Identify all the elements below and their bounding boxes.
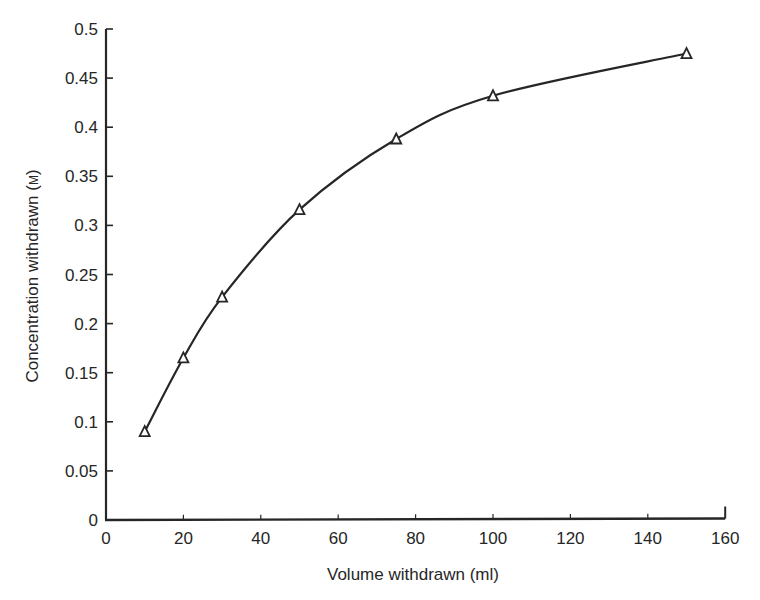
y-tick-label: 0.5: [74, 20, 98, 39]
triangle-marker-icon: [488, 90, 498, 100]
x-axis-title: Volume withdrawn (ml): [327, 565, 499, 584]
y-tick-label: 0.45: [65, 69, 98, 88]
x-tick-label: 160: [711, 529, 739, 548]
triangle-marker-icon: [682, 48, 692, 58]
y-tick-label: 0.05: [65, 462, 98, 481]
triangle-marker-icon: [140, 426, 150, 436]
y-tick-label: 0.4: [74, 118, 98, 137]
y-tick-label: 0.2: [74, 315, 98, 334]
x-tick-label: 20: [174, 529, 193, 548]
y-tick-label: 0.3: [74, 216, 98, 235]
x-tick-label: 140: [634, 529, 662, 548]
x-tick-label: 120: [556, 529, 584, 548]
x-axis: 020406080100120140160: [101, 507, 739, 549]
plot-area: [140, 48, 692, 436]
y-axis: 00.050.10.150.20.250.30.350.40.450.5: [65, 20, 113, 530]
x-tick-label: 60: [329, 529, 348, 548]
series-line: [145, 54, 687, 432]
y-axis-title: Concentration withdrawn (M): [23, 169, 42, 382]
triangle-marker-icon: [391, 133, 401, 143]
x-tick-label: 100: [479, 529, 507, 548]
y-tick-label: 0.35: [65, 167, 98, 186]
y-tick-label: 0.1: [74, 413, 98, 432]
y-tick-label: 0.15: [65, 364, 98, 383]
x-tick-label: 40: [251, 529, 270, 548]
x-tick-label: 0: [101, 529, 110, 548]
y-tick-label: 0: [89, 511, 98, 530]
y-tick-label: 0.25: [65, 266, 98, 285]
x-tick-label: 80: [406, 529, 425, 548]
chart: 00.050.10.150.20.250.30.350.40.450.5 020…: [0, 0, 760, 600]
